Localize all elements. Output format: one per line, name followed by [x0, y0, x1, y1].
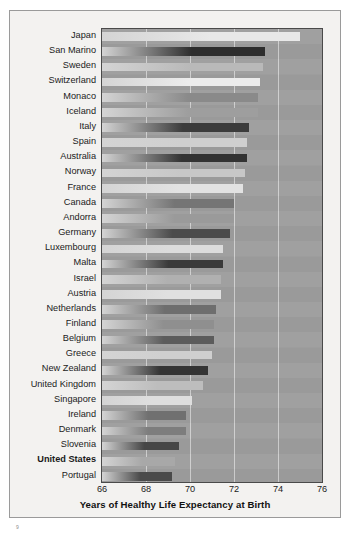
bar [102, 290, 221, 299]
category-label: Germany [9, 225, 101, 240]
category-label: Singapore [9, 392, 101, 407]
category-label: Austria [9, 286, 101, 301]
x-tick-label: 76 [317, 484, 327, 494]
category-label: Canada [9, 195, 101, 210]
bar [102, 169, 245, 178]
bar-row [102, 226, 322, 241]
category-label: Australia [9, 149, 101, 164]
bar [102, 351, 212, 360]
x-tick-label: 74 [273, 484, 283, 494]
category-axis-labels: JapanSan MarinoSwedenSwitzerlandMonacoIc… [9, 28, 101, 483]
bar [102, 336, 214, 345]
bar [102, 396, 192, 405]
category-label: Greece [9, 346, 101, 361]
category-label: San Marino [9, 43, 101, 58]
category-label: Sweden [9, 58, 101, 73]
category-label: Italy [9, 119, 101, 134]
figure-page: JapanSan MarinoSwedenSwitzerlandMonacoIc… [0, 0, 350, 543]
category-label: Denmark [9, 422, 101, 437]
category-label: Portugal [9, 468, 101, 483]
bar [102, 123, 249, 132]
category-label: New Zealand [9, 361, 101, 376]
bar [102, 320, 214, 329]
category-label: Switzerland [9, 73, 101, 88]
bar-row [102, 241, 322, 256]
category-label: Andorra [9, 210, 101, 225]
category-label: Spain [9, 134, 101, 149]
x-tick-label: 70 [185, 484, 195, 494]
bar-row [102, 393, 322, 408]
bar-row [102, 439, 322, 454]
bar-row [102, 363, 322, 378]
category-label: Netherlands [9, 301, 101, 316]
bar [102, 305, 216, 314]
plot-area [101, 28, 323, 483]
bar [102, 93, 258, 102]
bar-row [102, 29, 322, 44]
bar [102, 245, 223, 254]
category-label: Finland [9, 316, 101, 331]
value-axis: 666870727476 [101, 483, 323, 499]
bar [102, 427, 186, 436]
bar-row [102, 257, 322, 272]
bar [102, 366, 208, 375]
bar [102, 154, 247, 163]
bar-row [102, 135, 322, 150]
category-label: United Kingdom [9, 377, 101, 392]
bar [102, 457, 175, 466]
bar-row [102, 120, 322, 135]
category-label: Ireland [9, 407, 101, 422]
bar [102, 472, 172, 481]
category-label: Malta [9, 255, 101, 270]
bar [102, 411, 186, 420]
bar [102, 78, 260, 87]
bar [102, 184, 243, 193]
bar-row [102, 166, 322, 181]
category-label: Belgium [9, 331, 101, 346]
category-label: Slovenia [9, 437, 101, 452]
category-label: France [9, 180, 101, 195]
category-label: United States [9, 452, 101, 467]
bar [102, 63, 263, 72]
x-tick-label: 66 [97, 484, 107, 494]
bar-row [102, 150, 322, 165]
category-label: Norway [9, 164, 101, 179]
bar-row [102, 378, 322, 393]
category-label: Japan [9, 28, 101, 43]
bar [102, 442, 179, 451]
bar-row [102, 59, 322, 74]
bar-row [102, 272, 322, 287]
category-label: Israel [9, 271, 101, 286]
bar-row [102, 196, 322, 211]
bar-row [102, 469, 322, 483]
bar [102, 47, 265, 56]
bar-row [102, 348, 322, 363]
bar [102, 275, 221, 284]
x-axis-title: Years of Healthy Life Expectancy at Birt… [9, 499, 341, 510]
bar [102, 229, 230, 238]
bar-row [102, 181, 322, 196]
bar-row [102, 408, 322, 423]
bar-row [102, 302, 322, 317]
bar-row [102, 454, 322, 469]
bar-row [102, 287, 322, 302]
bar [102, 138, 247, 147]
bar [102, 214, 234, 223]
bar [102, 260, 223, 269]
bar-row [102, 332, 322, 347]
category-label: Iceland [9, 104, 101, 119]
bar-row [102, 44, 322, 59]
bar-row [102, 105, 322, 120]
bar-row [102, 423, 322, 438]
bar-row [102, 90, 322, 105]
page-number: 9 [16, 524, 19, 530]
bar [102, 108, 258, 117]
bar [102, 381, 203, 390]
bar-row [102, 75, 322, 90]
category-label: Monaco [9, 89, 101, 104]
bar-row [102, 211, 322, 226]
x-tick-label: 72 [229, 484, 239, 494]
bar-chart: JapanSan MarinoSwedenSwitzerlandMonacoIc… [9, 10, 341, 518]
bar [102, 32, 300, 41]
bar [102, 199, 234, 208]
